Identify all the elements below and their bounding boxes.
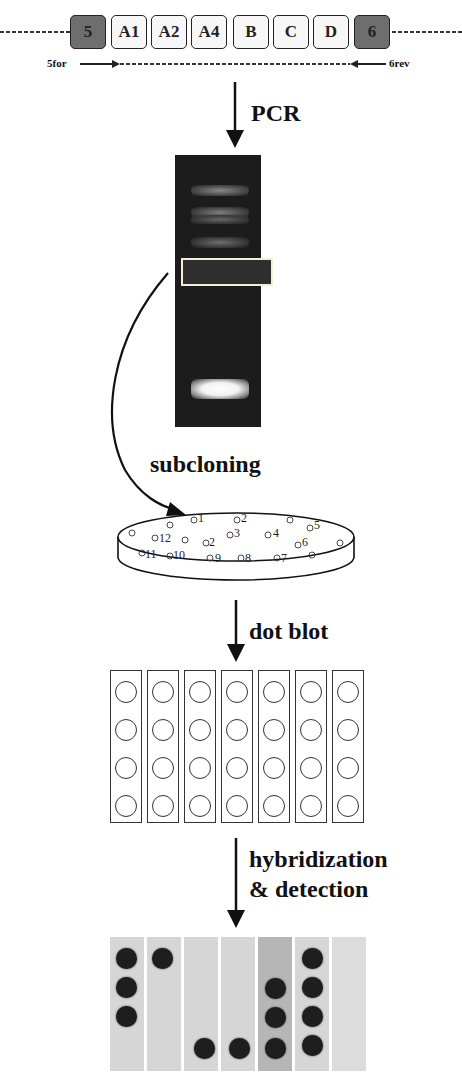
blot-well <box>115 719 137 741</box>
blot-well <box>337 795 359 817</box>
colony-label: 9 <box>215 551 221 566</box>
positive-signal-dot <box>116 948 137 969</box>
result-strip <box>295 937 329 1071</box>
result-strip <box>221 937 255 1071</box>
blot-well <box>152 757 174 779</box>
blot-well <box>152 681 174 703</box>
positive-signal-dot <box>229 1038 250 1059</box>
result-strip <box>110 937 144 1071</box>
dot-blot-label: dot blot <box>249 618 328 644</box>
blot-strip <box>332 670 364 823</box>
positive-signal-dot <box>116 1006 137 1027</box>
colony-label: 10 <box>173 548 185 563</box>
blot-well <box>300 795 322 817</box>
positive-signal-dot <box>265 978 286 999</box>
positive-signal-dot <box>302 948 323 969</box>
detection-label: & detection <box>249 876 368 902</box>
result-strip <box>258 937 292 1071</box>
blot-strip <box>221 670 253 823</box>
blot-well <box>152 795 174 817</box>
blot-strip <box>110 670 142 823</box>
blot-well <box>300 719 322 741</box>
blot-well <box>115 757 137 779</box>
colony-label: 1 <box>198 511 204 526</box>
positive-signal-dot <box>302 977 323 998</box>
colony-label: 4 <box>273 526 279 541</box>
colony-label: 2 <box>241 511 247 526</box>
result-strip <box>147 937 181 1071</box>
positive-signal-dot <box>302 1035 323 1056</box>
colony-label: 8 <box>245 551 251 566</box>
blot-well <box>226 681 248 703</box>
blot-strip <box>147 670 179 823</box>
blot-well <box>189 757 211 779</box>
hybridization-label: hybridization <box>249 846 388 872</box>
blot-strip <box>258 670 290 823</box>
subcloning-label: subcloning <box>150 451 261 477</box>
dot-blot-arrow-icon <box>226 600 246 664</box>
result-strip <box>332 937 366 1071</box>
blot-well <box>226 757 248 779</box>
colony-label: 6 <box>302 535 308 550</box>
blot-well <box>226 795 248 817</box>
blot-strip <box>184 670 216 823</box>
positive-signal-dot <box>265 1007 286 1028</box>
blot-well <box>263 757 285 779</box>
blot-strip <box>295 670 327 823</box>
blot-well <box>300 757 322 779</box>
blot-well <box>263 719 285 741</box>
positive-signal-dot <box>194 1038 215 1059</box>
colony-label: 12 <box>159 531 171 546</box>
blot-well <box>152 719 174 741</box>
colony-label: 5 <box>314 518 320 533</box>
blot-well <box>263 681 285 703</box>
blot-well <box>115 795 137 817</box>
colony-label: 3 <box>234 526 240 541</box>
hybridization-arrow-icon <box>226 838 246 930</box>
blot-well <box>337 681 359 703</box>
colony-label: 2 <box>209 535 215 550</box>
blot-well <box>189 795 211 817</box>
blot-well <box>189 681 211 703</box>
blot-well <box>337 757 359 779</box>
blot-well <box>226 719 248 741</box>
colony-label: 7 <box>281 551 287 566</box>
blot-well <box>115 681 137 703</box>
colony-label: 11 <box>145 547 157 562</box>
result-strip <box>184 937 218 1071</box>
blot-well <box>337 719 359 741</box>
blot-well <box>263 795 285 817</box>
positive-signal-dot <box>152 948 173 969</box>
blot-well <box>189 719 211 741</box>
positive-signal-dot <box>265 1038 286 1059</box>
positive-signal-dot <box>116 977 137 998</box>
positive-signal-dot <box>302 1006 323 1027</box>
blot-well <box>300 681 322 703</box>
